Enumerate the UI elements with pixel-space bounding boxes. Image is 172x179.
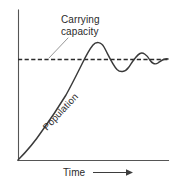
carrying-capacity-label-line1: Carrying: [61, 14, 100, 25]
time-axis-label: Time: [63, 167, 86, 178]
logistic-growth-figure: Carrying capacity Population Time: [0, 0, 172, 179]
time-axis-arrow-icon: [93, 169, 133, 176]
carrying-capacity-label-line2: capacity: [61, 26, 99, 37]
population-axis-label: Population: [40, 91, 80, 132]
chart-canvas: Carrying capacity Population Time: [0, 0, 172, 179]
carrying-capacity-leader-line: [49, 38, 68, 58]
